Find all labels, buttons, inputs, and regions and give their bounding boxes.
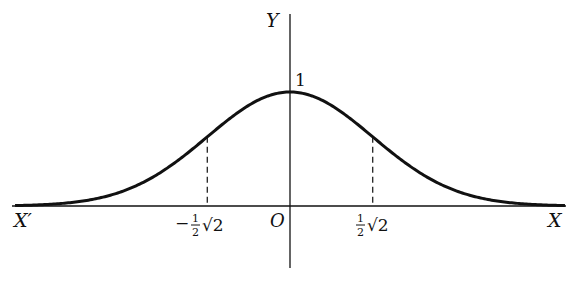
peak-value-label: 1 [295,70,306,90]
bell-curve-diagram: Y 1 X′ X O − 1 2 √2 1 2 √2 [0,0,577,283]
fraction-denominator: 2 [192,226,199,239]
x-axis-label: X [546,209,563,231]
minus-sign: − [175,213,189,233]
root-two: √2 [202,215,224,235]
fraction-numerator: 1 [357,212,364,225]
tick-label-positive-half-root-two: 1 2 √2 [356,212,389,239]
y-axis-label: Y [266,9,281,31]
fraction-denominator: 2 [357,226,364,239]
x-negative-axis-label: X′ [12,209,33,231]
tick-label-negative-half-root-two: − 1 2 √2 [175,212,224,239]
root-two: √2 [367,215,389,235]
fraction-numerator: 1 [192,212,199,225]
origin-label: O [270,210,285,231]
